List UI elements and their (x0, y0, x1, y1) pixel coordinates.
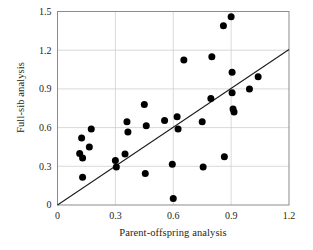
data-point (169, 161, 176, 168)
data-point (255, 73, 262, 80)
data-point (246, 85, 253, 92)
data-point (161, 117, 168, 124)
data-point (174, 113, 181, 120)
gridlines (58, 12, 290, 206)
data-point (207, 95, 214, 102)
data-point (113, 163, 120, 170)
data-point (78, 134, 85, 141)
y-tick-label: 0.9 (39, 83, 52, 94)
data-point (229, 69, 236, 76)
data-point (122, 151, 129, 158)
data-point (200, 163, 207, 170)
data-point (221, 153, 228, 160)
data-point (143, 122, 150, 129)
data-point (79, 154, 86, 161)
x-tick-label: 0.6 (167, 210, 180, 221)
data-point (112, 157, 119, 164)
data-point (142, 170, 149, 177)
y-tick-label: 0.6 (39, 122, 52, 133)
data-point (208, 53, 215, 60)
data-point (170, 195, 177, 202)
data-point (231, 109, 238, 116)
data-point (79, 174, 86, 181)
y-tick-labels: 00.30.60.91.21.5 (39, 6, 52, 211)
x-tick-label: 0 (55, 210, 60, 221)
x-tick-labels: 00.30.60.91.2 (55, 210, 295, 221)
data-point (199, 118, 206, 125)
data-point (228, 13, 235, 20)
plot-canvas: 00.30.60.91.21.5 00.30.60.91.2 (0, 0, 313, 250)
y-tick-label: 0.3 (39, 161, 52, 172)
data-point (175, 125, 182, 132)
data-point (123, 118, 130, 125)
data-point (141, 101, 148, 108)
x-tick-label: 0.3 (109, 210, 122, 221)
scatter-plot-figure: Full-sib analysis Parent-offspring analy… (0, 0, 313, 250)
data-point (86, 143, 93, 150)
y-tick-label: 1.5 (39, 6, 52, 17)
x-tick-label: 0.9 (225, 210, 238, 221)
data-point (220, 22, 227, 29)
x-tick-label: 1.2 (283, 210, 296, 221)
data-point (88, 125, 95, 132)
data-point (229, 89, 236, 96)
data-point (180, 56, 187, 63)
data-point (124, 129, 131, 136)
y-tick-label: 1.2 (39, 45, 52, 56)
y-tick-label: 0 (47, 199, 52, 210)
